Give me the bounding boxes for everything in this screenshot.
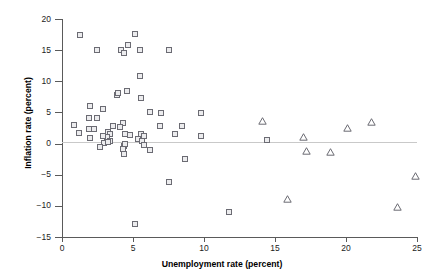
x-axis-line xyxy=(62,237,417,238)
x-tick xyxy=(417,237,418,242)
data-point-square xyxy=(172,131,178,137)
data-point-square xyxy=(132,31,138,37)
x-tick-label: 25 xyxy=(402,244,432,253)
data-point-square xyxy=(157,123,163,129)
y-tick xyxy=(55,144,62,145)
data-point-square xyxy=(166,179,172,185)
y-tick-label: 20 xyxy=(25,15,51,24)
data-point-square xyxy=(147,147,153,153)
data-point-triangle xyxy=(326,148,335,156)
data-point-triangle xyxy=(283,195,292,203)
data-point-square xyxy=(87,103,93,109)
x-axis-title: Unemployment rate (percent) xyxy=(0,259,444,269)
y-tick xyxy=(55,237,62,238)
data-point-square xyxy=(97,144,103,150)
data-point-square xyxy=(87,135,93,141)
data-point-square xyxy=(105,139,111,145)
data-point-square xyxy=(158,110,164,116)
data-point-square xyxy=(132,221,138,227)
data-point-square xyxy=(179,123,185,129)
x-tick xyxy=(62,237,63,242)
data-point-square xyxy=(115,90,121,96)
x-tick xyxy=(275,237,276,242)
data-point-square xyxy=(71,122,77,128)
y-tick-label: −15 xyxy=(25,233,51,242)
data-point-triangle xyxy=(411,172,420,180)
x-tick xyxy=(204,237,205,242)
data-point-square xyxy=(182,156,188,162)
data-point-square xyxy=(121,151,127,157)
data-point-square xyxy=(198,133,204,139)
data-point-square xyxy=(166,47,172,53)
data-point-square xyxy=(86,115,92,121)
data-point-triangle xyxy=(299,133,308,141)
x-tick xyxy=(133,237,134,242)
data-point-square xyxy=(137,47,143,53)
data-point-triangle xyxy=(258,117,267,125)
data-point-square xyxy=(94,115,100,121)
x-tick-label: 20 xyxy=(331,244,361,253)
data-point-square xyxy=(124,88,130,94)
data-point-square xyxy=(100,106,106,112)
x-tick-label: 5 xyxy=(118,244,148,253)
data-point-square xyxy=(264,137,270,143)
x-tick xyxy=(346,237,347,242)
data-point-square xyxy=(137,73,143,79)
y-tick xyxy=(55,112,62,113)
y-tick xyxy=(55,175,62,176)
data-point-square xyxy=(117,124,123,130)
data-point-square xyxy=(127,132,133,138)
data-point-square xyxy=(121,50,127,56)
y-tick xyxy=(55,50,62,51)
data-point-square xyxy=(76,130,82,136)
data-point-triangle xyxy=(393,203,402,211)
data-point-triangle xyxy=(367,118,376,126)
data-point-square xyxy=(94,47,100,53)
x-tick-label: 0 xyxy=(47,244,77,253)
data-point-square xyxy=(100,133,106,139)
x-tick-label: 15 xyxy=(260,244,290,253)
scatter-chart: −15−10−505101520 0510152025 Inflation ra… xyxy=(0,0,444,275)
data-point-triangle xyxy=(302,147,311,155)
data-point-square xyxy=(125,42,131,48)
data-point-triangle xyxy=(343,124,352,132)
y-tick xyxy=(55,206,62,207)
x-tick-label: 10 xyxy=(189,244,219,253)
data-point-square xyxy=(138,95,144,101)
data-point-square xyxy=(91,126,97,132)
data-point-square xyxy=(77,32,83,38)
data-point-square xyxy=(198,110,204,116)
y-axis-title: Inflation rate (percent) xyxy=(23,43,33,203)
y-tick xyxy=(55,81,62,82)
data-point-square xyxy=(226,209,232,215)
data-point-square xyxy=(147,109,153,115)
y-tick xyxy=(55,19,62,20)
